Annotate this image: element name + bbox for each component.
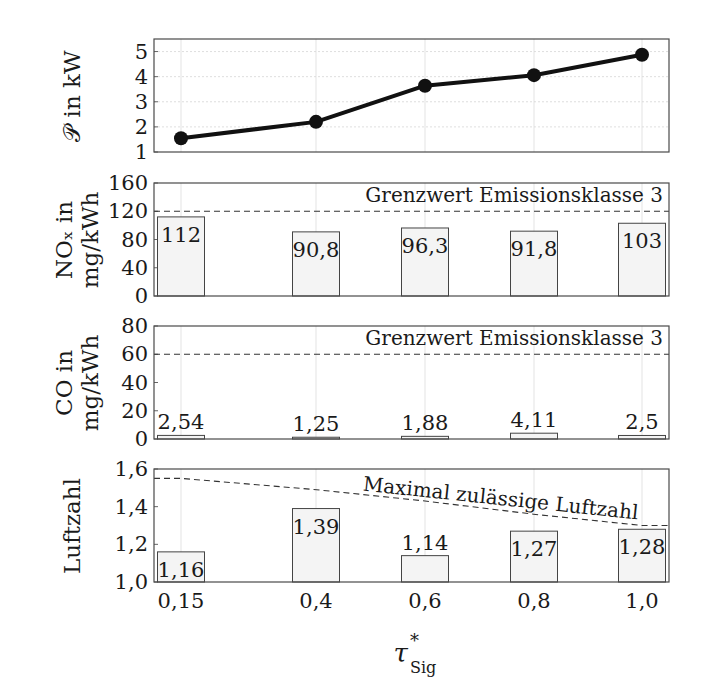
co-ylabel-line1: CO in xyxy=(51,350,77,416)
y-tick-label: 20 xyxy=(121,399,148,423)
data-point-marker xyxy=(527,68,541,82)
y-tick-label: 80 xyxy=(121,228,148,252)
data-point-marker xyxy=(418,79,432,93)
x-tick-label: 0,8 xyxy=(517,589,550,613)
bar xyxy=(402,556,449,582)
y-tick-label: 1 xyxy=(135,140,148,164)
co-panel: 0204060802,541,251,884,112,5Grenzwert Em… xyxy=(121,314,669,451)
y-tick-label: 0 xyxy=(135,284,148,308)
x-tick-label: 0,15 xyxy=(158,589,205,613)
y-tick-label: 5 xyxy=(135,40,148,64)
y-tick-label: 120 xyxy=(108,199,148,223)
x-axis-label-main: τ xyxy=(394,638,409,668)
co-ylabel: CO in mg/kWh xyxy=(51,334,103,431)
bar-value-label: 1,88 xyxy=(402,411,449,435)
x-axis-ticks: 0,150,40,60,81,0 xyxy=(158,589,659,613)
bar-value-label: 1,27 xyxy=(511,537,558,561)
panel-frame xyxy=(154,39,669,152)
data-point-marker xyxy=(635,48,649,62)
y-tick-label: 4 xyxy=(135,65,148,89)
y-tick-label: 0 xyxy=(135,427,148,451)
bar-value-label: 91,8 xyxy=(511,237,558,261)
luftzahl-panel: 1,01,21,41,61,161,391,141,271,28Maximal … xyxy=(115,457,669,594)
power-ylabel-text: 𝒫 in kW xyxy=(59,50,85,142)
nox-ylabel: NOₓ in mg/kWh xyxy=(51,191,103,288)
y-tick-label: 1,0 xyxy=(115,570,148,594)
bar-value-label: 1,14 xyxy=(402,531,449,555)
bar-value-label: 103 xyxy=(622,229,662,253)
bar-value-label: 1,39 xyxy=(293,515,340,539)
y-tick-label: 1,6 xyxy=(115,457,148,481)
power-ylabel: 𝒫 in kW xyxy=(59,50,85,142)
limit-line-label: Grenzwert Emissionsklasse 3 xyxy=(365,183,663,207)
bar-value-label: 90,8 xyxy=(293,238,340,262)
x-axis-label-sup: * xyxy=(410,630,419,651)
data-point-marker xyxy=(309,115,323,129)
bar xyxy=(511,433,558,439)
y-tick-label: 2 xyxy=(135,115,148,139)
nox-ylabel-line1: NOₓ in xyxy=(51,201,77,279)
limit-line-label: Grenzwert Emissionsklasse 3 xyxy=(365,326,663,350)
bar-value-label: 1,16 xyxy=(158,558,205,582)
power-panel: 12345 xyxy=(135,39,669,164)
bar-value-label: 1,25 xyxy=(293,412,340,436)
bar-value-label: 2,5 xyxy=(625,410,658,434)
x-tick-label: 1,0 xyxy=(625,589,658,613)
y-tick-label: 1,4 xyxy=(115,495,148,519)
x-axis-label-sub: Sig xyxy=(410,658,436,677)
luftzahl-ylabel: Luftzahl xyxy=(59,478,85,574)
bar-value-label: 96,3 xyxy=(402,234,449,258)
y-tick-label: 40 xyxy=(121,371,148,395)
bar-value-label: 1,28 xyxy=(619,535,666,559)
bar-value-label: 4,11 xyxy=(511,408,558,432)
y-tick-label: 40 xyxy=(121,256,148,280)
nox-panel: 0408012016011290,896,391,8103Grenzwert E… xyxy=(108,171,669,308)
y-tick-label: 160 xyxy=(108,171,148,195)
y-tick-label: 60 xyxy=(121,342,148,366)
bar-value-label: 112 xyxy=(161,223,201,247)
power-line xyxy=(181,55,642,138)
y-tick-label: 1,2 xyxy=(115,532,148,556)
data-point-marker xyxy=(174,131,188,145)
x-tick-label: 0,6 xyxy=(408,589,441,613)
y-tick-label: 3 xyxy=(135,90,148,114)
x-axis-label: τ * Sig xyxy=(394,630,437,677)
bar-value-label: 2,54 xyxy=(158,410,205,434)
luftzahl-ylabel-text: Luftzahl xyxy=(59,478,85,574)
nox-ylabel-line2: mg/kWh xyxy=(77,191,103,288)
x-tick-label: 0,4 xyxy=(299,589,332,613)
y-tick-label: 80 xyxy=(121,314,148,338)
co-ylabel-line2: mg/kWh xyxy=(77,334,103,431)
limit-curve-label: Maximal zulässige Luftzahl xyxy=(362,472,640,525)
chart-svg: 12345 𝒫 in kW 0408012016011290,896,391,8… xyxy=(0,0,706,699)
chart-figure: 12345 𝒫 in kW 0408012016011290,896,391,8… xyxy=(0,0,706,699)
